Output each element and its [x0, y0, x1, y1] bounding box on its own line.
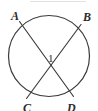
point-label-a: A: [11, 10, 19, 22]
geometry-figure: A B C D 1: [0, 0, 98, 111]
chord-b-to-c: [27, 25, 82, 99]
chord-a-to-d: [20, 22, 74, 97]
point-label-b: B: [83, 11, 91, 23]
angle-label-1: 1: [48, 53, 54, 64]
point-label-d: D: [67, 102, 76, 111]
point-label-c: C: [23, 102, 31, 111]
